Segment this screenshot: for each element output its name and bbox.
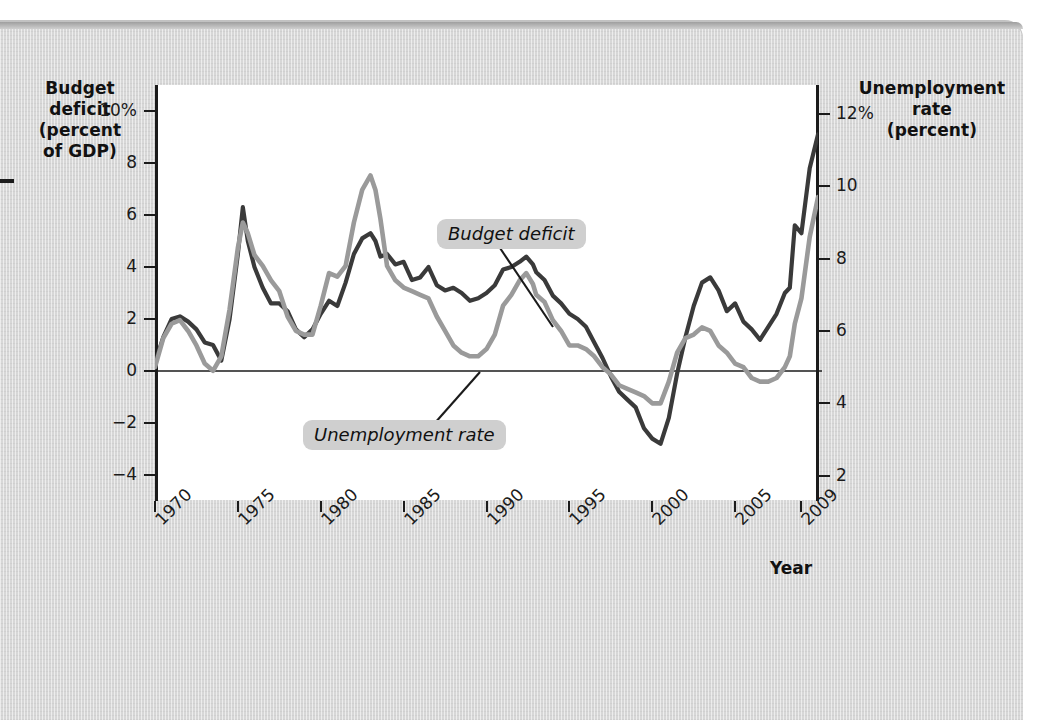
callout-budget-deficit: Budget deficit (437, 219, 586, 249)
series-lines (0, 0, 1045, 720)
unemployment-rate-leader-line (434, 372, 480, 424)
figure-root: Budget deficit (percent of GDP) Unemploy… (0, 0, 1045, 720)
series-path-budget-deficit (155, 134, 818, 443)
callout-unemployment-rate: Unemployment rate (303, 420, 506, 450)
series-paths (155, 134, 818, 443)
